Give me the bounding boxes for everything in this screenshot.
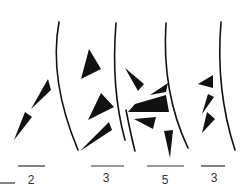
wedge-sign (14, 112, 32, 140)
ruling-line-2 (115, 23, 125, 140)
ruling-line-4 (220, 22, 235, 150)
scale-label-4: 3 (211, 172, 218, 184)
cuneiform-drawing (0, 0, 248, 194)
wedge-sign (164, 130, 173, 158)
ruling-line-1 (56, 22, 78, 150)
scale-label-2: 3 (103, 172, 110, 184)
wedge-sign (80, 122, 112, 151)
ruling-line-left-fragment (126, 110, 135, 151)
wedge-sign (88, 93, 114, 120)
wedge-sign (31, 79, 51, 109)
wedge-sign (198, 75, 213, 88)
wedge-sign (150, 83, 168, 95)
ruling-line-3 (165, 23, 188, 148)
wedge-sign (134, 117, 156, 129)
wedge-sign (125, 68, 144, 91)
wedge-sign (128, 95, 169, 112)
scale-label-1: 2 (28, 174, 35, 186)
scale-label-3: 5 (162, 174, 169, 186)
wedge-sign (202, 112, 215, 133)
wedge-sign (202, 94, 214, 114)
wedge-sign (81, 49, 101, 79)
